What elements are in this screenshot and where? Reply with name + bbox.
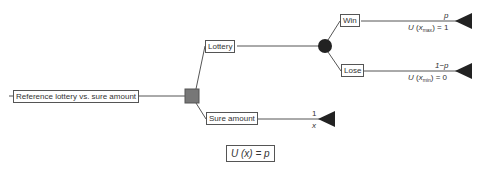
lose-probability: 1−p xyxy=(435,61,449,70)
lottery-label: Lottery xyxy=(208,42,232,51)
sure-amount-node-box: Sure amount xyxy=(206,112,258,125)
win-node-box: Win xyxy=(340,14,360,27)
lottery-node-box: Lottery xyxy=(205,40,235,53)
decision-node-square xyxy=(185,89,199,103)
win-probability: p xyxy=(444,11,448,20)
lose-utility: U (xmin) = 0 xyxy=(408,73,447,85)
root-node-box: Reference lottery vs. sure amount xyxy=(13,90,139,103)
lose-node-box: Lose xyxy=(341,64,364,77)
lose-label: Lose xyxy=(344,66,361,75)
sure-amount-label: Sure amount xyxy=(209,114,255,123)
formula-box: U (x) = p xyxy=(226,145,275,162)
win-label: Win xyxy=(343,16,357,25)
sure-terminal-triangle xyxy=(318,111,335,127)
lose-terminal-triangle xyxy=(455,63,472,79)
root-label: Reference lottery vs. sure amount xyxy=(16,92,136,101)
sure-value: x xyxy=(312,121,316,130)
chance-node-circle xyxy=(318,39,332,53)
sure-probability: 1 xyxy=(312,109,316,118)
win-utility: U (xmax) = 1 xyxy=(408,23,448,35)
win-terminal-triangle xyxy=(455,13,472,29)
